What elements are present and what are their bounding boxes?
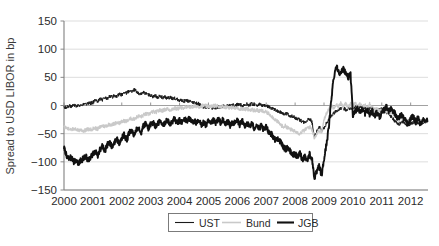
y-tick-label--100: −100 [31, 156, 57, 168]
x-tick-label-2003: 2003 [138, 195, 164, 207]
chart-canvas: 150100500−50−100−150 2000200120022003200… [0, 0, 439, 246]
y-tick-label-150: 150 [38, 15, 57, 27]
x-tick-label-2010: 2010 [340, 195, 366, 207]
chart-legend: UST Bund JGB [169, 214, 319, 232]
x-tick-label-2004: 2004 [167, 195, 193, 207]
x-tick-label-2008: 2008 [282, 195, 308, 207]
x-tick-label-2000: 2000 [51, 195, 77, 207]
x-tick-label-2002: 2002 [109, 195, 135, 207]
x-tick-label-2007: 2007 [253, 195, 279, 207]
legend-label-ust: UST [199, 217, 221, 229]
x-tick-label-2005: 2005 [196, 195, 222, 207]
x-tick-label-2006: 2006 [225, 195, 251, 207]
y-tick-label-group: 150100500−50−100−150 [31, 15, 57, 196]
y-tick-label-50: 50 [44, 71, 57, 83]
y-tick-label-0: 0 [51, 100, 57, 112]
legend-label-bund: Bund [246, 217, 271, 229]
x-tick-label-group: 2000200120022003200420052006200720082009… [51, 195, 423, 207]
x-tick-label-2009: 2009 [311, 195, 337, 207]
x-tick-label-2001: 2001 [80, 195, 106, 207]
x-tick-label-2011: 2011 [369, 195, 394, 207]
legend-label-jgb: JGB [298, 217, 318, 229]
y-axis-title: Spread to USD LIBOR in bp [4, 38, 16, 175]
y-tick-label--50: −50 [37, 128, 57, 140]
spread-line-chart: 150100500−50−100−150 2000200120022003200… [0, 0, 439, 246]
y-tick-label-100: 100 [38, 43, 57, 55]
x-tick-label-2012: 2012 [398, 195, 424, 207]
